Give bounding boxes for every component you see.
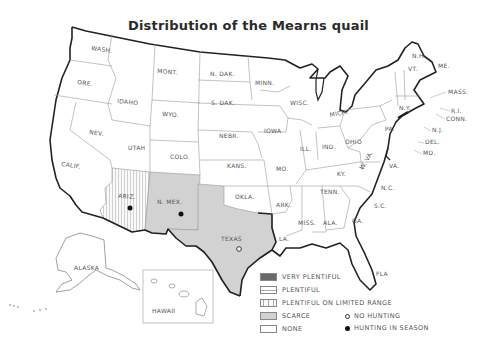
legend-very-plentiful: VERY PLENTIFUL: [260, 271, 392, 283]
label-ill: ILL.: [300, 145, 312, 152]
label-nh: N.H.: [412, 52, 426, 59]
legend-plentiful: PLENTIFUL: [260, 284, 392, 296]
label-miss: MISS.: [298, 219, 316, 226]
label-del: DEL.: [425, 138, 440, 145]
label-va: VA.: [389, 162, 400, 169]
legend-hunting-in-season: HUNTING IN SEASON: [345, 322, 429, 334]
label-idaho: IDAHO: [117, 97, 139, 106]
hunting-in-season-marker-arizona: [128, 206, 133, 211]
label-nj: N.J.: [432, 126, 443, 134]
label-pa: PA.: [385, 125, 395, 132]
chesapeake: [386, 148, 390, 160]
label-nev: NEV.: [89, 128, 105, 137]
us-map: WASH. ORE. CALIF. IDAHO NEV. MONT. WYO. …: [0, 0, 497, 352]
label-la: LA.: [279, 235, 289, 242]
none-swatch: [260, 325, 277, 333]
hawaii-inset: [143, 270, 213, 323]
no-hunting-marker-texas: [237, 247, 242, 252]
label-calif: CALIF.: [61, 160, 81, 170]
aleutian-islands: [9, 304, 47, 312]
label-tenn: TENN.: [319, 188, 340, 195]
label-ky: KY.: [337, 170, 346, 177]
legend-plentiful-limited: PLENTIFUL ON LIMITED RANGE: [260, 297, 392, 309]
label-ri: R.I.: [451, 107, 462, 114]
label-wisc: WISC.: [290, 99, 309, 106]
label-conn: CONN.: [446, 115, 467, 122]
label-mo: MO.: [276, 165, 288, 172]
scarce-swatch: [260, 312, 277, 320]
label-mont: MONT.: [157, 67, 178, 76]
label-nebr: NEBR.: [219, 132, 239, 139]
label-utah: UTAH: [128, 144, 145, 151]
label-alaska: ALASKA: [74, 264, 100, 271]
alaska-outline: [56, 233, 140, 292]
label-wash: WASH.: [91, 44, 113, 54]
label-ohio: OHIO: [345, 138, 362, 145]
state-arizona: [100, 168, 150, 232]
label-ore: ORE.: [77, 78, 94, 87]
label-hawaii: HAWAII: [152, 307, 175, 314]
legend-no-hunting: NO HUNTING: [345, 310, 429, 322]
label-ga: GA.: [352, 217, 363, 224]
label-ark: ARK.: [276, 201, 291, 208]
label-mich: MICH.: [329, 108, 349, 118]
label-sc: S.C.: [374, 202, 387, 209]
label-ndak: N. DAK.: [210, 70, 235, 77]
label-sdak: S. DAK.: [211, 99, 235, 106]
label-colo: COLO.: [170, 153, 190, 160]
legend-hunting: NO HUNTING HUNTING IN SEASON: [345, 310, 429, 334]
very-plentiful-swatch: [260, 273, 277, 281]
label-me: ME.: [438, 62, 450, 69]
open-circle-icon: [345, 314, 350, 319]
plentiful-limited-swatch: [260, 299, 277, 307]
label-ala: ALA.: [323, 219, 338, 226]
label-wyo: WYO.: [162, 110, 179, 118]
label-ariz: ARIZ.: [118, 192, 136, 200]
label-vt: VT.: [408, 65, 418, 72]
label-minn: MINN.: [255, 79, 274, 86]
lake-michigan-shore: [316, 69, 324, 100]
label-mass: MASS.: [448, 88, 468, 95]
label-kans: KANS.: [227, 162, 247, 169]
label-ny: N.Y.: [399, 104, 411, 111]
label-nmex: N. MEX.: [157, 198, 182, 205]
filled-circle-icon: [345, 326, 350, 331]
label-iowa: IOWA: [264, 127, 282, 134]
label-okla: OKLA.: [235, 193, 255, 200]
label-ind: IND.: [322, 143, 336, 150]
label-texas: TEXAS: [220, 235, 242, 242]
long-island: [398, 112, 408, 118]
hunting-in-season-marker-new-mexico: [179, 212, 184, 217]
plentiful-swatch: [260, 286, 277, 294]
label-nc: N.C.: [381, 184, 395, 191]
label-md: MD.: [423, 149, 436, 156]
